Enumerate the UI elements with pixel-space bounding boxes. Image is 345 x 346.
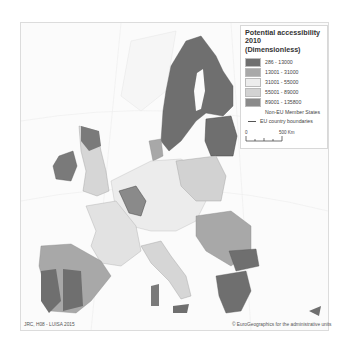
map-legend: Potential accessibility 2010 (Dimensionl… (240, 25, 328, 149)
scale-bar-icon (245, 130, 295, 144)
legend-class-label: 55001 - 89000 (265, 89, 298, 95)
scale-bar: 0 500 Km (245, 130, 295, 144)
legend-title: Potential accessibility 2010 (Dimensionl… (245, 29, 329, 54)
legend-class-label: 89001 - 135800 (265, 99, 301, 105)
legend-class-2: 13001 - 31000 (245, 68, 298, 76)
legend-title-line3: (Dimensionless) (245, 46, 329, 54)
legend-swatch (245, 58, 261, 67)
legend-non-eu-label: Non-EU Member States (265, 109, 320, 115)
legend-swatch (245, 108, 261, 117)
legend-boundaries: EU country boundaries (245, 117, 313, 125)
legend-swatch (245, 88, 261, 97)
legend-swatch (245, 78, 261, 87)
credit-right: © EuroGeographics for the administrative… (232, 322, 332, 327)
legend-swatch (245, 68, 261, 77)
legend-class-5: 89001 - 135800 (245, 98, 301, 106)
legend-non-eu: Non-EU Member States (245, 108, 320, 116)
legend-class-label: 31001 - 55000 (265, 79, 298, 85)
legend-class-1: 286 - 13000 (245, 58, 293, 66)
legend-class-label: 13001 - 31000 (265, 69, 298, 75)
legend-class-label: 286 - 13000 (265, 59, 293, 65)
legend-class-4: 55001 - 89000 (245, 88, 298, 96)
credit-left: JRC, H08 - LUISA 2015 (24, 322, 75, 327)
legend-class-3: 31001 - 55000 (245, 78, 298, 86)
boundary-line-icon (248, 121, 256, 122)
legend-swatch (245, 98, 261, 107)
legend-boundary-label: EU country boundaries (260, 118, 313, 124)
